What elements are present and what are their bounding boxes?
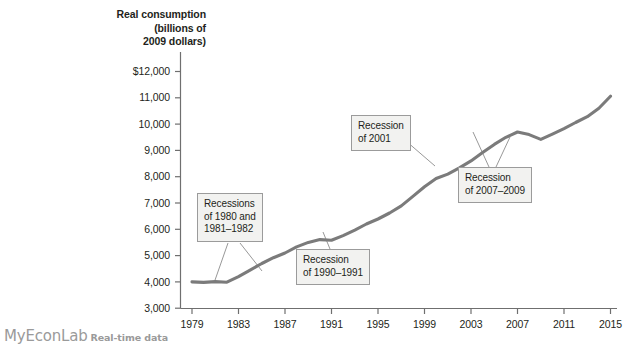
x-tick-label-2015: 2015 bbox=[588, 319, 626, 330]
annotation-line-2: of 1990–1991 bbox=[303, 267, 363, 280]
y-tick-label-10000: 10,000 bbox=[98, 119, 170, 130]
annotation-line-1: Recessions bbox=[204, 198, 256, 211]
y-axis-title-line-2: (billions of bbox=[78, 22, 206, 36]
y-tick-label-11000: 11,000 bbox=[98, 92, 170, 103]
y-tick-label-12000: $12,000 bbox=[98, 66, 170, 77]
annotation-recession-2007-2009: Recession of 2007–2009 bbox=[458, 167, 532, 203]
myeconlab-logo-text: MyEconLab bbox=[4, 327, 88, 345]
x-axis-ticks bbox=[192, 309, 611, 315]
x-tick-label-1983: 1983 bbox=[216, 319, 262, 330]
x-tick-label-2011: 2011 bbox=[541, 319, 587, 330]
myeconlab-branding: MyEconLabReal-time data bbox=[4, 327, 168, 345]
y-axis-ticks bbox=[175, 72, 181, 309]
annotation-line-1: Recession bbox=[303, 254, 363, 267]
annotation-line-2: of 1980 and bbox=[204, 211, 256, 224]
y-tick-label-3000: 3,000 bbox=[98, 303, 170, 314]
y-tick-label-6000: 6,000 bbox=[98, 224, 170, 235]
x-tick-label-1999: 1999 bbox=[402, 319, 448, 330]
x-tick-label-1979: 1979 bbox=[169, 319, 215, 330]
consumption-chart-figure: Real consumption (billions of 2009 dolla… bbox=[0, 0, 626, 350]
annotation-line-1: Recession bbox=[358, 120, 404, 133]
annotation-recessions-1980-1981-1982: Recessions of 1980 and 1981–1982 bbox=[197, 193, 263, 242]
annotation-line-3: 1981–1982 bbox=[204, 223, 256, 236]
y-axis-title-line-3: 2009 dollars) bbox=[78, 35, 206, 49]
y-tick-label-5000: 5,000 bbox=[98, 250, 170, 261]
y-axis-title-line-1: Real consumption bbox=[78, 8, 206, 22]
annotation-recession-1990-1991: Recession of 1990–1991 bbox=[296, 249, 370, 285]
x-tick-label-1991: 1991 bbox=[309, 319, 355, 330]
annotation-line-2: of 2001 bbox=[358, 133, 404, 146]
x-tick-label-2007: 2007 bbox=[495, 319, 541, 330]
y-tick-label-4000: 4,000 bbox=[98, 277, 170, 288]
y-axis-title: Real consumption (billions of 2009 dolla… bbox=[78, 8, 206, 49]
y-tick-label-8000: 8,000 bbox=[98, 171, 170, 182]
annotation-line-1: Recession bbox=[465, 172, 525, 185]
realtime-data-label: Real-time data bbox=[91, 332, 169, 343]
chart-canvas bbox=[0, 0, 626, 350]
y-tick-label-9000: 9,000 bbox=[98, 145, 170, 156]
x-tick-label-1995: 1995 bbox=[355, 319, 401, 330]
x-tick-label-2003: 2003 bbox=[448, 319, 494, 330]
y-tick-label-7000: 7,000 bbox=[98, 198, 170, 209]
x-tick-label-1987: 1987 bbox=[262, 319, 308, 330]
annotation-recession-2001: Recession of 2001 bbox=[351, 115, 411, 151]
annotation-line-2: of 2007–2009 bbox=[465, 185, 525, 198]
